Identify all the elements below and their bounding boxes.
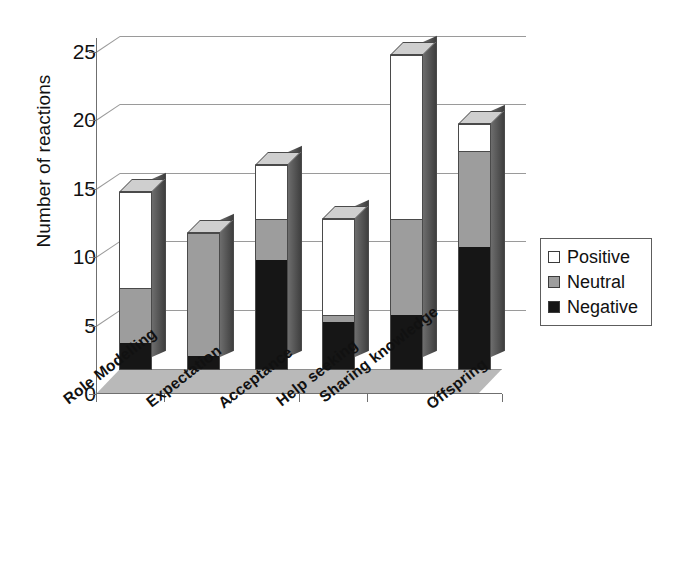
- gridline: [120, 36, 526, 37]
- bar-side-face: [220, 214, 234, 357]
- x-axis-category-labels: Role ModellingExpectationAcceptanceHelp …: [96, 400, 616, 530]
- y-tick-mark: [89, 52, 96, 53]
- legend-swatch-positive-icon: [548, 251, 560, 263]
- y-tick-mark: [89, 120, 96, 121]
- bar-segment-neutral: [458, 151, 491, 247]
- legend-label: Positive: [567, 248, 630, 266]
- gridline: [120, 104, 526, 105]
- stacked-bar-chart: Number of reactions 0510152025 Role Mode…: [0, 0, 674, 564]
- bar-column: [255, 165, 288, 370]
- bar-segment-positive: [322, 219, 355, 315]
- chart-legend: PositiveNeutralNegative: [540, 238, 652, 326]
- legend-item-neutral[interactable]: Neutral: [548, 269, 645, 294]
- gridline-riser: [96, 310, 121, 327]
- y-axis-line: [96, 38, 97, 394]
- bar-acceptance: [255, 152, 288, 370]
- bar-segment-negative: [458, 247, 491, 370]
- legend-label: Neutral: [567, 273, 625, 291]
- bar-segment-neutral: [187, 233, 220, 356]
- y-tick-mark: [89, 394, 96, 395]
- bar-segment-positive: [119, 192, 152, 288]
- gridline-riser: [96, 36, 121, 53]
- y-axis-tick-labels: 0510152025: [52, 0, 96, 564]
- bar-segment-positive: [458, 124, 491, 151]
- bar-segment-neutral: [390, 219, 423, 315]
- bar-segment-positive: [390, 55, 423, 219]
- legend-item-negative[interactable]: Negative: [548, 294, 645, 319]
- legend-swatch-neutral-icon: [548, 276, 560, 288]
- gridline-riser: [96, 241, 121, 258]
- y-tick-mark: [89, 257, 96, 258]
- y-tick-mark: [89, 326, 96, 327]
- legend-label: Negative: [567, 298, 638, 316]
- bar-segment-neutral: [255, 219, 288, 260]
- bar-segment-neutral: [322, 315, 355, 322]
- bar-offspring: [458, 111, 491, 370]
- legend-item-positive[interactable]: Positive: [548, 244, 645, 269]
- bar-side-face: [152, 173, 166, 357]
- bar-side-face: [288, 145, 302, 357]
- bar-segment-positive: [255, 165, 288, 220]
- y-tick-mark: [89, 189, 96, 190]
- gridline-riser: [96, 104, 121, 121]
- bar-side-face: [355, 200, 369, 357]
- bar-column: [458, 124, 491, 370]
- gridline-riser: [96, 173, 121, 190]
- legend-swatch-negative-icon: [548, 301, 560, 313]
- bar-side-face: [491, 104, 505, 357]
